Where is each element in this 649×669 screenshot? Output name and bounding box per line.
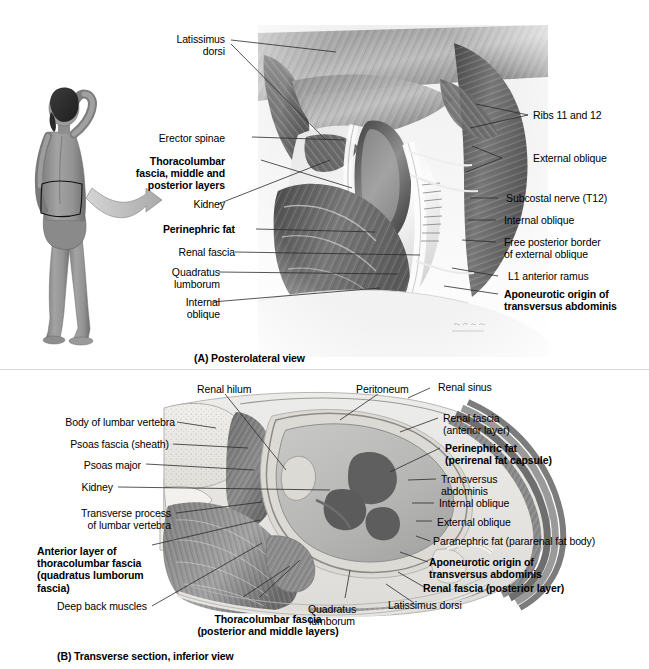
label-erector-spinae: Erector spinae: [125, 132, 225, 144]
label-renal-fascia-posterior-layer: Renal fascia (posterior layer): [423, 582, 564, 594]
label-psoas-major: Psoas major: [37, 459, 141, 471]
label-kidney: Kidney: [145, 198, 225, 210]
label-peritoneum: Peritoneum: [356, 383, 409, 395]
label-renal-fascia: Renal fascia: [135, 246, 235, 258]
label-body-of-lumbar-vertebra: Body of lumbar vertebra: [37, 416, 175, 428]
label-deep-back-muscles: Deep back muscles: [37, 600, 147, 612]
label-quadratus-lumborum-b: Quadratus lumborum: [293, 603, 371, 627]
label-l1-anterior-ramus: L1 anterior ramus: [508, 270, 589, 282]
label-kidney-b: Kidney: [37, 481, 113, 493]
label-transversus-abdominis: Transversus abdominis: [441, 473, 497, 497]
label-transverse-process: Transverse process of lumbar vertebra: [37, 507, 171, 531]
label-perinephric-fat: Perinephric fat: [125, 223, 235, 235]
label-renal-sinus: Renal sinus: [438, 381, 492, 393]
panel-a-caption: (A) Posterolateral view: [194, 352, 305, 364]
label-paranephric-fat: Paranephric fat (pararenal fat body): [433, 535, 595, 547]
label-thoracolumbar-fascia: Thoracolumbar fascia, middle and posteri…: [105, 155, 225, 192]
label-renal-hilum: Renal hilum: [197, 383, 251, 395]
label-renal-fascia-anterior-layer: Renal fascia (anterior layer): [443, 412, 510, 436]
panel-divider: [0, 369, 649, 370]
label-anterior-layer-thoracolumbar-fascia: Anterior layer of thoracolumbar fascia (…: [37, 545, 177, 594]
label-psoas-fascia: Psoas fascia (sheath): [37, 438, 169, 450]
label-latissimus-dorsi: Latissimus dorsi: [125, 33, 225, 57]
label-aponeurotic-origin-b: Aponeurotic origin of transversus abdomi…: [429, 556, 542, 580]
label-aponeurotic-origin: Aponeurotic origin of transversus abdomi…: [504, 288, 617, 312]
label-subcostal-nerve: Subcostal nerve (T12): [506, 192, 607, 204]
label-quadratus-lumborum: Quadratus lumborum: [135, 266, 220, 290]
label-perinephric-fat-b: Perinephric fat (perirenal fat capsule): [445, 442, 552, 466]
label-internal-oblique: Internal oblique: [135, 296, 220, 320]
label-internal-oblique-right: Internal oblique: [504, 214, 574, 226]
label-external-oblique: External oblique: [533, 152, 607, 164]
label-internal-oblique-b: Internal oblique: [439, 497, 509, 509]
label-free-posterior-border: Free posterior border of external obliqu…: [504, 236, 601, 260]
panel-b-caption: (B) Transverse section, inferior view: [57, 650, 234, 662]
label-ribs-11-and-12: Ribs 11 and 12: [533, 109, 601, 121]
label-external-oblique-b: External oblique: [437, 516, 511, 528]
label-latissimus-dorsi-b: Latissimus dorsi: [388, 599, 462, 611]
